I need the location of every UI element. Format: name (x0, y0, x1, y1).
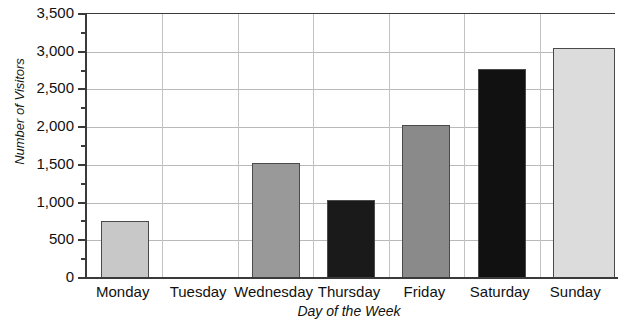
gridline-vertical (464, 14, 465, 278)
gridline-horizontal (87, 127, 615, 128)
y-axis-tick-label: 2,000 (0, 118, 74, 133)
gridline-vertical (389, 14, 390, 278)
y-axis-tick-major (78, 239, 87, 241)
y-axis-tick-minor (81, 70, 87, 72)
y-axis-tick-major (78, 202, 87, 204)
y-axis-tick-minor (81, 32, 87, 34)
bar-wednesday (252, 163, 300, 278)
y-axis-tick-label: 0 (0, 269, 74, 284)
y-axis-tick-label: 1,000 (0, 194, 74, 209)
y-axis-tick-major (78, 126, 87, 128)
bar-thursday (327, 200, 375, 278)
y-axis-tick-minor (81, 183, 87, 185)
y-axis-tick-label: 3,500 (0, 5, 74, 20)
x-axis-title: Day of the Week (85, 303, 613, 319)
x-axis-line (80, 277, 618, 279)
y-axis-tick-minor (81, 220, 87, 222)
y-axis-tick-label: 3,000 (0, 43, 74, 58)
gridline-vertical (540, 14, 541, 278)
gridline-vertical (313, 14, 314, 278)
y-axis-tick-minor (81, 107, 87, 109)
bar-chart: Number of Visitors 05001,0001,5002,0002,… (0, 0, 628, 328)
bar-saturday (478, 69, 526, 278)
bar-monday (101, 221, 149, 278)
bar-sunday (553, 48, 615, 278)
y-axis-tick-major (78, 13, 87, 15)
y-axis-tick-major (78, 51, 87, 53)
x-axis-tick-labels: MondayTuesdayWednesdayThursdayFridaySatu… (85, 283, 613, 305)
gridline-horizontal (87, 89, 615, 90)
y-axis-tick-label: 500 (0, 231, 74, 246)
bar-friday (402, 125, 450, 278)
y-axis-tick-label: 1,500 (0, 156, 74, 171)
y-axis-tick-minor (81, 145, 87, 147)
x-axis-tick-label: Sunday (530, 283, 621, 301)
y-axis-tick-label: 2,500 (0, 80, 74, 95)
y-axis-tick-labels: 05001,0001,5002,0002,5003,0003,500 (0, 0, 74, 328)
y-axis-tick-minor (81, 258, 87, 260)
y-axis-tick-major (78, 88, 87, 90)
gridline-horizontal (87, 52, 615, 53)
gridline-horizontal (87, 165, 615, 166)
gridline-vertical (238, 14, 239, 278)
plot-area (85, 13, 615, 278)
gridline-vertical (162, 14, 163, 278)
y-axis-tick-major (78, 164, 87, 166)
